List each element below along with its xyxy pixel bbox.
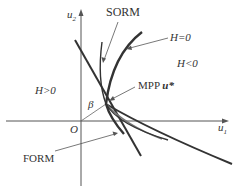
reliability-diagram: u2 u1 O SORM H=0 H<0 H>0 MPP u* β FORM bbox=[0, 0, 235, 190]
mpp-arrowhead bbox=[109, 96, 115, 101]
sorm-approx-line bbox=[106, 104, 232, 164]
sorm-label: SORM bbox=[106, 6, 140, 18]
h0-leader bbox=[130, 38, 168, 48]
form-label: FORM bbox=[23, 153, 54, 164]
u1-axis-label: u1 bbox=[218, 122, 227, 136]
failure-region-label: H<0 bbox=[177, 58, 198, 69]
u2-axis bbox=[79, 9, 84, 186]
form-leader bbox=[55, 134, 115, 151]
beta-label: β bbox=[88, 99, 93, 110]
limit-state-label: H=0 bbox=[170, 32, 191, 43]
mpp-symbol: u* bbox=[162, 79, 174, 91]
u1-label-sub: 1 bbox=[224, 128, 228, 136]
form-arrowhead bbox=[113, 132, 119, 137]
sorm-arrowhead bbox=[102, 57, 107, 63]
safe-region-label: H>0 bbox=[35, 85, 56, 96]
mpp-leader bbox=[112, 87, 135, 99]
beta-line bbox=[81, 104, 106, 121]
origin-label: O bbox=[70, 124, 78, 135]
u2-label-sub: 2 bbox=[73, 15, 77, 23]
mpp-label-text: MPP bbox=[138, 79, 162, 91]
u1-axis bbox=[6, 119, 229, 124]
sorm-leader bbox=[104, 22, 118, 60]
u2-axis-label: u2 bbox=[67, 9, 76, 23]
mpp-label: MPP u* bbox=[138, 80, 174, 91]
